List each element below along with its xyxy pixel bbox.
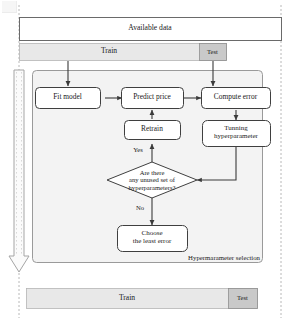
flowchart-figure: Available data Train Test Fit model Pred… [0, 0, 298, 323]
bottom-split-band [27, 289, 258, 309]
predict-price-node [122, 88, 184, 109]
compute-error-node [202, 88, 271, 109]
available-data-box [20, 18, 282, 41]
flow-down-arrow [9, 70, 29, 272]
tuning-hyperparameter-node [203, 121, 271, 147]
choose-least-error-node [118, 226, 188, 252]
top-train-band [20, 44, 227, 61]
flowchart-canvas [0, 0, 298, 323]
top-test-block [200, 44, 227, 61]
bottom-test-block [229, 289, 258, 309]
fit-model-node [36, 88, 101, 109]
bottom-train-band [27, 289, 258, 309]
top-split-band [20, 44, 227, 61]
retrain-node [125, 121, 181, 140]
